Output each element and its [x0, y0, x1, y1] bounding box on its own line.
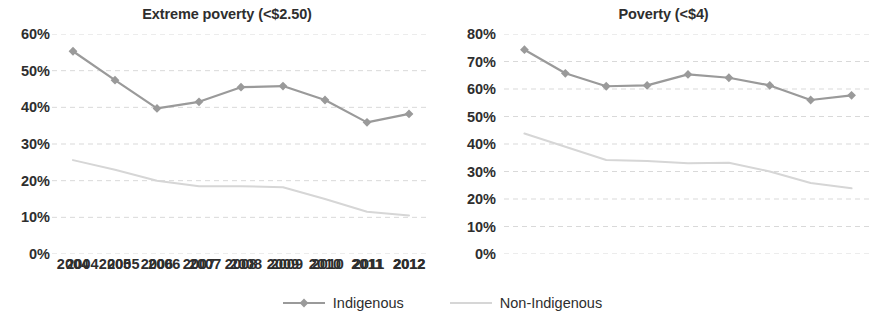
x-tick-label: 2006 — [148, 256, 180, 272]
y-tick-label: 10% — [467, 219, 496, 235]
chart-title-poverty: Poverty (<$4) — [442, 6, 885, 22]
x-tick-label: 2007 — [189, 256, 221, 272]
data-point-marker — [405, 110, 414, 119]
data-point-marker — [684, 70, 693, 79]
y-tick-label: 30% — [467, 164, 496, 180]
data-point-marker — [806, 96, 815, 105]
y-tick-label: 70% — [467, 54, 496, 70]
y-axis-labels-poverty: 0%10%20%30%40%50%60%70%80% — [450, 34, 496, 254]
y-tick-label: 0% — [29, 246, 50, 262]
y-tick-label: 60% — [467, 81, 496, 97]
data-point-marker — [237, 83, 246, 92]
data-point-marker — [520, 45, 529, 54]
y-tick-label: 10% — [21, 209, 50, 225]
y-tick-label: 0% — [475, 246, 496, 262]
x-tick-label: 2004 — [66, 256, 98, 272]
chart-title-extreme-poverty: Extreme poverty (<$2.50) — [0, 6, 448, 22]
data-point-marker — [321, 96, 330, 105]
x-tick-label: 2010 — [312, 256, 344, 272]
y-tick-label: 50% — [21, 63, 50, 79]
legend-item-non-indigenous[interactable]: Non-Indigenous — [450, 295, 602, 311]
x-tick-label: 2008 — [230, 256, 262, 272]
y-tick-label: 80% — [467, 26, 496, 42]
x-tick-label: 2012 — [393, 256, 425, 272]
data-point-marker — [195, 97, 204, 106]
legend-item-indigenous[interactable]: Indigenous — [283, 295, 404, 311]
chart-legend: IndigenousNon-Indigenous — [0, 288, 885, 318]
y-tick-label: 30% — [21, 136, 50, 152]
x-tick-label: 2011 — [353, 256, 384, 272]
x-tick-label: 2005 — [107, 256, 139, 272]
chart-svg — [504, 34, 872, 254]
y-tick-label: 40% — [21, 99, 50, 115]
plot-area-poverty — [504, 34, 872, 254]
data-point-marker — [279, 82, 288, 91]
y-axis-labels-extreme-poverty: 0%10%20%30%40%50%60% — [4, 34, 50, 254]
data-point-marker — [561, 69, 570, 78]
x-axis-labels-poverty: 200420052006200720082009201020112012 — [62, 256, 430, 278]
legend-label: Non-Indigenous — [500, 295, 602, 311]
series-line-non-indigenous — [73, 160, 409, 215]
y-tick-label: 60% — [21, 26, 50, 42]
data-point-marker — [724, 73, 733, 82]
plot-area-extreme-poverty — [52, 34, 430, 254]
data-point-marker — [847, 91, 856, 100]
legend-line-icon — [450, 296, 492, 310]
chart-panel-poverty: Poverty (<$4) — [442, 0, 885, 285]
y-tick-label: 50% — [467, 109, 496, 125]
x-tick-label: 2009 — [271, 256, 303, 272]
y-tick-label: 40% — [467, 136, 496, 152]
series-line-non-indigenous — [524, 134, 851, 189]
data-point-marker — [363, 118, 372, 127]
poverty-charts-figure: Extreme poverty (<$2.50) 0%10%20%30%40%5… — [0, 0, 885, 318]
y-tick-label: 20% — [21, 173, 50, 189]
legend-label: Indigenous — [333, 295, 404, 311]
chart-panel-extreme-poverty: Extreme poverty (<$2.50) — [0, 0, 442, 285]
y-tick-label: 20% — [467, 191, 496, 207]
chart-svg — [52, 34, 430, 254]
legend-line-diamond-icon — [283, 296, 325, 310]
